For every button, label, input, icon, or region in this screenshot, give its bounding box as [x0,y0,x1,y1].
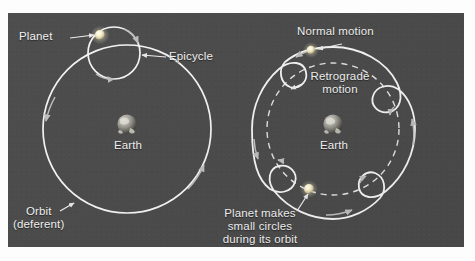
figure-root: Planet Epicycle Earth Orbit (deferent) N… [0,0,475,261]
label-planet: Planet [19,30,53,43]
caption-line2: small circles [208,220,312,233]
label-orbit-line1: Orbit [26,205,52,218]
epicycle-arrow-top [124,29,138,43]
label-retrograde-line1: Retrograde [302,70,378,83]
label-earth-left: Earth [107,139,149,152]
path-arrow-right [412,119,414,145]
label-orbit-line2: (deferent) [13,218,64,231]
orbit-leader-line [60,203,74,211]
label-normal-motion: Normal motion [297,25,374,38]
label-earth-right: Earth [313,139,355,152]
planet-leader-line-left [70,35,94,38]
label-epicycle: Epicycle [169,50,213,63]
planet-marker-top-right [307,46,316,55]
diagram-panel: Planet Epicycle Earth Orbit (deferent) N… [8,13,464,247]
epicycle-leader-line [142,55,166,57]
planet-marker-left [95,30,105,40]
label-retrograde-line2: motion [302,83,378,96]
caption-line1: Planet makes [208,207,312,220]
path-arrow-bottom [326,210,352,215]
caption-line3: during its orbit [204,233,316,246]
right-panel-group [252,42,415,219]
loop-arrow-lower-left [278,160,284,163]
planet-marker-bottom-right [304,184,314,194]
